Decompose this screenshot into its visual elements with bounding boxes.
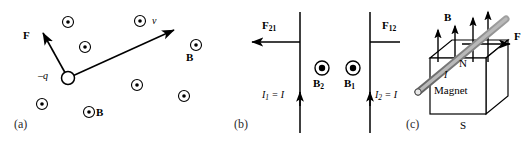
field-dot-icon — [191, 40, 202, 51]
panel-label-b: (b) — [234, 118, 248, 130]
north-pole-label: N — [459, 58, 467, 69]
current-label: I — [444, 70, 447, 80]
field-b1-label: B1 — [344, 78, 355, 89]
panel-a-graphics — [0, 0, 212, 145]
field-b2-label: B2 — [313, 78, 324, 89]
field-dot-icon — [346, 61, 360, 75]
current-i2-label: I2 = I — [375, 90, 397, 100]
field-dot-icon — [80, 42, 91, 53]
field-dot-icon — [63, 17, 74, 28]
field-label-b: B — [444, 12, 451, 23]
force-f12-label: F12 — [382, 20, 396, 31]
panel-label-c: (c) — [406, 118, 419, 130]
force-label: F — [23, 30, 30, 41]
physics-figure: F v –q B B (a) — [0, 0, 532, 145]
field-label-b: B — [96, 107, 103, 118]
field-label-b-2: B — [186, 52, 193, 63]
field-dot-icon — [179, 91, 190, 102]
field-dot-icon — [84, 107, 95, 118]
field-dot-icon — [135, 16, 146, 27]
velocity-vector-arrow — [68, 30, 174, 78]
magnet-body-label: Magnet — [434, 85, 468, 96]
force-label: F — [514, 31, 521, 42]
field-dot-icon — [132, 80, 143, 91]
panel-b-parallel-wires: F21 F12 B2 B1 I1 = I I2 = I (b) — [212, 0, 400, 145]
current-i1-label: I1 = I — [262, 90, 284, 100]
field-dot-icon — [315, 61, 329, 75]
force-f21-label: F21 — [262, 20, 276, 31]
panel-label-a: (a) — [14, 118, 27, 130]
panel-a-moving-charge: F v –q B B (a) — [0, 0, 212, 145]
negative-charge-circle — [62, 72, 75, 85]
panel-c-magnet-rod: B F N I Magnet S (c) — [400, 0, 532, 145]
velocity-label: v — [152, 16, 156, 26]
south-pole-label: S — [460, 120, 466, 131]
field-dot-icon — [37, 99, 48, 110]
charge-label: –q — [38, 71, 48, 81]
